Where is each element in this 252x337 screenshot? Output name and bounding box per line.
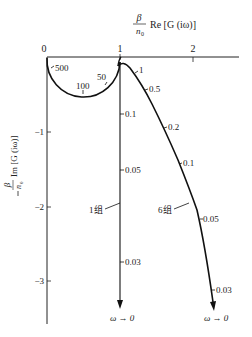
svg-text:0.05: 0.05 — [125, 165, 141, 175]
svg-text:1: 1 — [139, 65, 144, 75]
y-tick-3: −3 — [34, 276, 44, 286]
svg-text:100: 100 — [76, 81, 90, 91]
series-1-end-label: ω → 0 — [110, 313, 135, 323]
svg-text:0: 0 — [19, 181, 24, 184]
y-tick-1: −1 — [34, 127, 44, 137]
svg-text:50: 50 — [97, 72, 107, 82]
svg-text:0: 0 — [141, 31, 144, 37]
nyquist-chart: β n 0 Re [G (iω)] β n 0 Im [G (iω)] 0 1 … — [0, 0, 252, 337]
svg-text:0.1: 0.1 — [183, 158, 194, 168]
svg-text:β: β — [136, 12, 142, 23]
y-axis-label: β n 0 Im [G (iω)] — [2, 136, 24, 196]
series-1-arrow — [117, 300, 123, 309]
series-2-label: 6组 — [158, 204, 172, 215]
svg-text:0.03: 0.03 — [216, 285, 232, 295]
svg-text:Re [G (iω)]: Re [G (iω)] — [150, 19, 196, 31]
svg-text:0.2: 0.2 — [168, 122, 179, 132]
y-tick-2: −2 — [34, 202, 44, 212]
series-2-arrow — [210, 301, 216, 311]
svg-text:β: β — [2, 182, 12, 188]
svg-text:0.1: 0.1 — [125, 109, 136, 119]
svg-text:500: 500 — [55, 63, 69, 73]
svg-text:0.03: 0.03 — [125, 257, 141, 267]
x-axis-label: β n 0 Re [G (iω)] — [133, 12, 196, 37]
series-1-label: 1组 — [89, 204, 103, 215]
x-tick-1: 1 — [118, 43, 123, 54]
svg-text:n: n — [14, 185, 23, 189]
svg-text:Im [G (iω)]: Im [G (iω)] — [9, 136, 19, 177]
x-tick-0: 0 — [42, 43, 47, 54]
svg-text:0.5: 0.5 — [149, 84, 161, 94]
svg-text:0.05: 0.05 — [203, 214, 219, 224]
x-tick-2: 2 — [191, 43, 196, 54]
series-2-end-label: ω → 0 — [204, 313, 229, 323]
